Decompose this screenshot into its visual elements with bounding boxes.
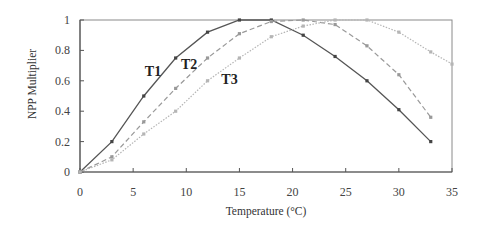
y-tick-label: 0.6 [55, 74, 70, 88]
data-point-marker [238, 56, 241, 59]
data-point-marker [174, 110, 177, 113]
data-point-marker [333, 18, 336, 21]
y-axis-title: NPP Multiplier [26, 49, 39, 119]
x-tick-label: 25 [340, 185, 352, 199]
y-tick-label: 0.8 [55, 43, 70, 57]
data-point-marker [365, 44, 368, 47]
npp-multiplier-chart: 0510152025303500.20.40.60.81 T1T2T3 Temp… [0, 0, 478, 225]
data-point-marker [365, 79, 368, 82]
data-point-marker [238, 32, 241, 35]
x-tick-label: 35 [446, 185, 458, 199]
series-t3 [78, 18, 453, 173]
x-tick-label: 30 [393, 185, 405, 199]
data-point-marker [397, 108, 400, 111]
data-point-marker [206, 56, 209, 59]
y-tick-label: 0 [64, 165, 70, 179]
y-tick-label: 1 [64, 13, 70, 27]
data-point-marker [78, 170, 81, 173]
data-point-marker [270, 35, 273, 38]
data-point-marker [302, 18, 305, 21]
data-point-marker [238, 18, 241, 21]
data-point-marker [429, 50, 432, 53]
data-point-marker [365, 18, 368, 21]
series-labels: T1T2T3 [145, 57, 238, 87]
data-point-marker [270, 20, 273, 23]
data-point-marker [174, 87, 177, 90]
x-tick-label: 0 [77, 185, 83, 199]
data-point-marker [142, 94, 145, 97]
series-label-t2: T2 [181, 57, 197, 72]
x-tick-label: 10 [180, 185, 192, 199]
data-point-marker [206, 31, 209, 34]
series-line [80, 20, 431, 172]
data-point-marker [142, 132, 145, 135]
series-line [80, 20, 452, 172]
x-axis-title: Temperature (°C) [226, 205, 307, 218]
series-line [80, 20, 431, 172]
data-point-marker [206, 79, 209, 82]
data-point-marker [397, 31, 400, 34]
plot-border [80, 20, 452, 172]
data-point-marker [333, 55, 336, 58]
series-t2 [78, 18, 432, 173]
data-point-marker [397, 73, 400, 76]
plot-area [80, 20, 452, 172]
x-tick-label: 20 [287, 185, 299, 199]
data-point-marker [142, 120, 145, 123]
data-point-marker [174, 56, 177, 59]
y-tick-label: 0.2 [55, 135, 70, 149]
data-point-marker [429, 116, 432, 119]
data-point-marker [450, 62, 453, 65]
data-point-marker [333, 23, 336, 26]
series-t1 [78, 18, 432, 173]
data-point-marker [110, 155, 113, 158]
series-layer [78, 18, 453, 173]
y-tick-label: 0.4 [55, 104, 70, 118]
x-tick-label: 5 [130, 185, 136, 199]
axes: 0510152025303500.20.40.60.81 [55, 13, 458, 199]
x-tick-label: 15 [233, 185, 245, 199]
series-label-t1: T1 [145, 64, 161, 79]
data-point-marker [302, 34, 305, 37]
data-point-marker [110, 140, 113, 143]
data-point-marker [110, 158, 113, 161]
data-point-marker [429, 140, 432, 143]
data-point-marker [302, 24, 305, 27]
series-label-t3: T3 [221, 72, 237, 87]
